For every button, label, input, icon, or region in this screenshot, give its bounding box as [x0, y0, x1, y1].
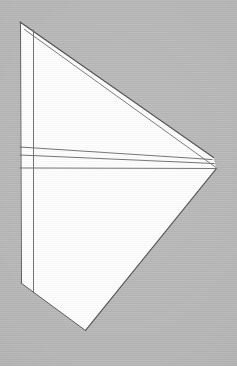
diagram-canvas	[0, 0, 237, 366]
main-paper-body	[20, 22, 216, 330]
origami-figure	[0, 0, 237, 366]
horizontal-crease-bottom	[20, 168, 217, 169]
